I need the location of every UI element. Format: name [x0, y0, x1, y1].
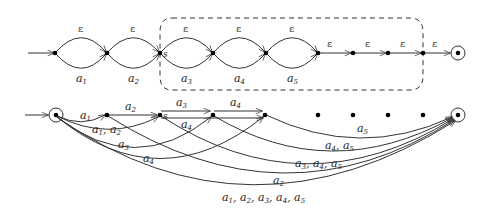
- bottom-state-3: [211, 113, 216, 118]
- bottom-state-8: [421, 113, 426, 118]
- eps-chain-label: ε: [432, 38, 437, 49]
- eps-label: ε: [130, 23, 135, 34]
- top-state-5: [316, 51, 321, 56]
- label-start-n3: a3: [118, 138, 130, 152]
- label-n3-n4: a4: [230, 96, 241, 110]
- bottom-s-label: s: [163, 111, 168, 121]
- bottom-start-state: [54, 113, 59, 118]
- eps-arc-4: [213, 38, 265, 53]
- top-state-s: [158, 51, 163, 56]
- label-n3-final: a4, a5: [325, 139, 355, 153]
- bottom-state-5: [316, 113, 321, 118]
- label-n4-final: a5: [357, 122, 369, 136]
- eps-chain-label: ε: [365, 38, 370, 49]
- bottom-state-4: [263, 113, 268, 118]
- bottom-final-state: [456, 113, 461, 118]
- top-s-label: s: [163, 49, 168, 59]
- bottom-state-s: [158, 113, 163, 118]
- label-s-n4: a4: [181, 118, 192, 132]
- a2-label: a2: [128, 72, 140, 86]
- bottom-state-7: [386, 113, 391, 118]
- label-start-n4: a4: [143, 152, 154, 166]
- eps-arc-3: [160, 38, 212, 53]
- a3-label: a3: [181, 72, 193, 86]
- top-automaton: s ε ε ε ε ε a1 a2 a3 a4 a5 ε ε ε ε: [28, 18, 465, 90]
- top-state-1: [105, 51, 110, 56]
- eps-chain-label: ε: [327, 38, 332, 49]
- label-start-s: a1, a2: [92, 123, 122, 137]
- label-n1-s: a2: [125, 100, 137, 114]
- top-state-8: [421, 51, 426, 56]
- bottom-state-1: [105, 113, 110, 118]
- a2-arc: [107, 53, 159, 68]
- label-n1-final: a2: [273, 174, 285, 188]
- label-s-n3: a3: [176, 96, 188, 110]
- eps-chain-label: ε: [400, 38, 405, 49]
- automata-diagram: s ε ε ε ε ε a1 a2 a3 a4 a5 ε ε ε ε: [0, 0, 487, 215]
- eps-label: ε: [183, 23, 188, 34]
- a4-arc: [213, 53, 265, 68]
- a5-arc: [266, 53, 317, 68]
- bottom-automaton: s a1 a1, a2 a3 a4 a2 a3 a4 a4 a5 a4, a5 …: [25, 96, 465, 205]
- a4-label: a4: [234, 72, 245, 86]
- eps-label: ε: [289, 23, 294, 34]
- top-state-4: [264, 51, 269, 56]
- top-final-state: [456, 51, 461, 56]
- eps-label: ε: [236, 23, 241, 34]
- eps-arc-5: [266, 38, 317, 53]
- a5-label: a5: [287, 72, 299, 86]
- eps-arc-2: [107, 38, 159, 53]
- a1-arc: [55, 53, 106, 68]
- top-state-0: [53, 51, 58, 56]
- label-s-final: a3, a4, a5: [295, 157, 343, 171]
- eps-arc-1: [55, 38, 106, 53]
- top-state-3: [211, 51, 216, 56]
- label-start-n1: a1: [80, 109, 91, 123]
- top-state-7: [386, 51, 391, 56]
- top-state-6: [351, 51, 356, 56]
- label-start-final: a1, a2, a3, a4, a5: [222, 191, 306, 205]
- eps-label: ε: [78, 23, 83, 34]
- bottom-state-6: [351, 113, 356, 118]
- a3-arc: [160, 53, 212, 68]
- a1-label: a1: [76, 72, 87, 86]
- edge-start-n4: [57, 117, 263, 159]
